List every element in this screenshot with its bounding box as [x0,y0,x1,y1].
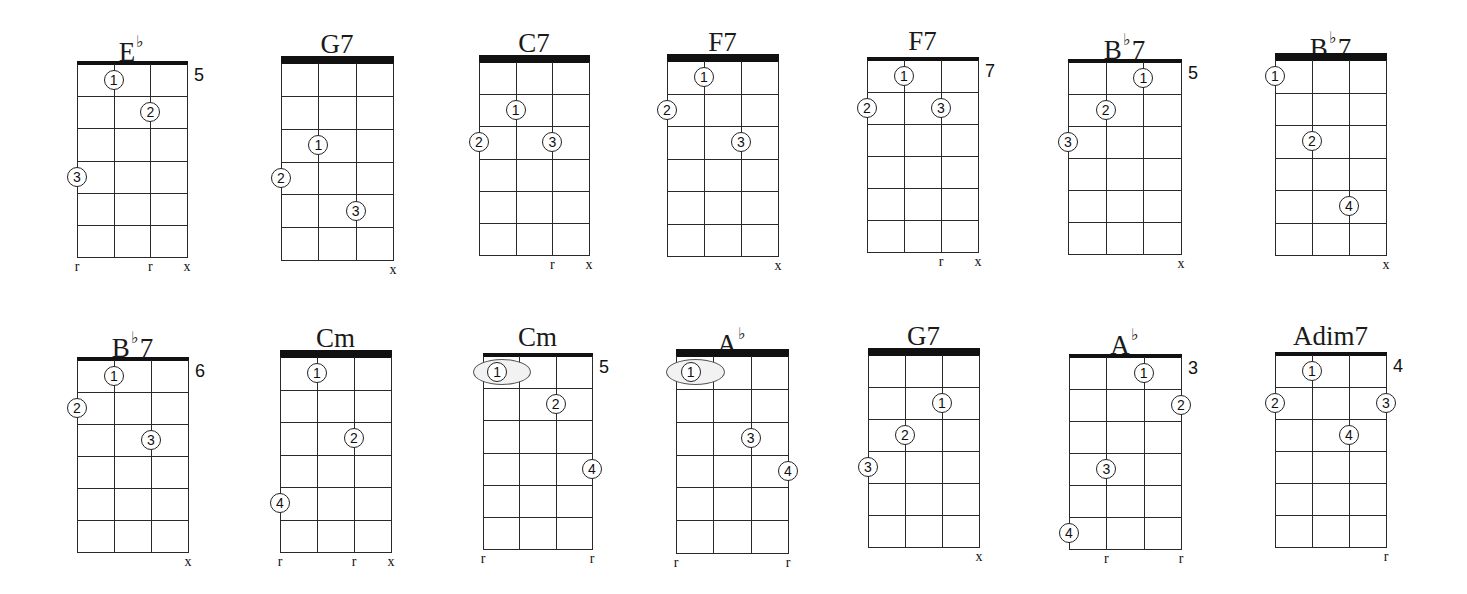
finger-number-circle: 2 [469,132,489,152]
fret-line [676,455,789,456]
fret-line [1068,222,1182,223]
finger-number-circle: 4 [1339,425,1359,445]
fret-line [1069,549,1182,550]
finger-number-circle: 4 [270,493,290,513]
string-line [905,355,906,547]
fret-line [1069,517,1182,518]
fret-line [479,94,590,95]
fret-line [77,488,189,489]
fret-line [280,552,392,553]
string-line [280,357,281,552]
muted-string-marker: x [181,260,193,274]
chord-name: G7 [868,323,979,350]
finger-number-circle: 2 [344,428,364,448]
string-line [317,357,318,552]
muted-string-marker: x [385,555,397,569]
string-line [150,64,151,257]
root-string-marker: r [1380,550,1392,564]
fret-line [676,487,789,488]
fret-line [676,553,789,554]
string-line [868,355,869,547]
flat-accidental: ♭ [1123,31,1131,48]
top-fret-bar [77,357,189,361]
string-line [281,63,282,260]
muted-string-marker: x [772,259,784,273]
finger-number-circle: 3 [731,132,751,152]
fret-line [483,420,593,421]
flat-accidental: ♭ [131,329,139,346]
finger-number-circle: 1 [307,363,327,383]
fret-line [280,422,392,423]
fret-line [1275,158,1387,159]
finger-number-circle: 2 [857,98,877,118]
fret-line [667,191,779,192]
finger-number-circle: 3 [67,167,87,187]
string-line [483,356,484,549]
fret-line [77,552,189,553]
chord-root: C [518,28,536,58]
fret-line [1068,158,1182,159]
fret-line [281,129,394,130]
finger-number-circle: 3 [141,430,161,450]
chord-name: C7 [479,30,589,57]
chord-root: F [908,26,923,56]
fret-line [479,223,590,224]
fret-line [867,252,979,253]
fret-line [479,255,590,256]
fret-line [1275,547,1387,548]
fret-line [1068,190,1182,191]
string-line [77,360,78,552]
root-string-marker: r [670,556,682,570]
chord-diagram: B♭75123x [1068,62,1181,254]
chord-root: G [907,321,927,351]
fret-line [868,483,980,484]
fret-line [868,387,980,388]
string-line [556,356,557,549]
string-line [114,360,115,552]
flat-accidental: ♭ [738,325,746,342]
fret-line [77,96,188,97]
fret-line [867,124,979,125]
finger-number-circle: 2 [140,102,160,122]
chord-quality: 7 [923,26,937,56]
fret-line [77,128,188,129]
string-line [1349,355,1350,547]
string-line [676,356,677,553]
fret-position-number: 7 [985,62,995,80]
fret-line [867,92,979,93]
finger-number-circle: 1 [1265,66,1285,86]
chord-quality: 7 [536,28,550,58]
fret-position-number: 5 [194,66,204,84]
chord-diagram: Adim741234r [1275,355,1386,547]
string-line [1068,62,1069,254]
finger-number-circle: 2 [657,100,677,120]
string-line [516,62,517,255]
finger-number-circle: 2 [1265,393,1285,413]
string-line [978,60,979,252]
fret-line [280,487,392,488]
string-line [1143,62,1144,254]
fret-line [281,260,394,261]
fret-line [77,392,189,393]
fret-line [77,520,189,521]
chord-diagram: F77123rx [867,60,978,252]
fret-line [1275,93,1387,94]
fret-line [1275,255,1387,256]
string-line [391,357,392,552]
finger-number-circle: 1 [1302,361,1322,381]
string-line [77,64,78,257]
string-line [318,63,319,260]
finger-number-circle: 3 [931,98,951,118]
fret-line [483,453,593,454]
fret-line [1275,190,1387,191]
finger-number-circle: 4 [582,459,602,479]
root-string-marker: r [1100,552,1112,566]
finger-number-circle: 2 [1171,395,1191,415]
fret-line [281,227,394,228]
chord-diagram: F7123x [667,61,778,256]
fret-line [280,455,392,456]
finger-number-circle: 1 [104,366,124,386]
fret-line [281,162,394,163]
flat-accidental: ♭ [1329,29,1337,46]
muted-string-marker: x [973,550,985,564]
